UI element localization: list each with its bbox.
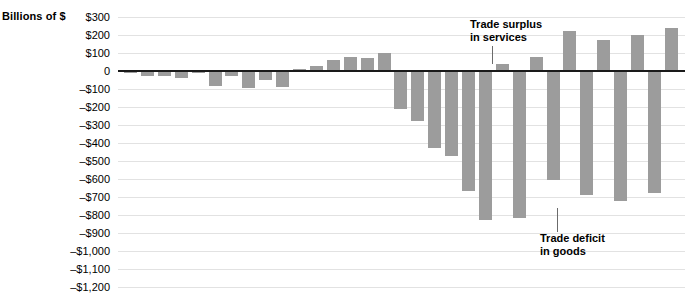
y-tick-label: –$700 <box>79 191 110 203</box>
bar <box>648 71 661 193</box>
bar <box>479 71 492 220</box>
y-axis-tick-labels: $300$200$1000–$100–$200–$300–$400–$500–$… <box>0 0 118 288</box>
bar <box>242 71 255 88</box>
bar <box>597 40 610 71</box>
bar <box>530 57 543 71</box>
bar <box>547 71 560 180</box>
bar <box>614 71 627 201</box>
annotation-deficit-leader-line <box>557 208 558 232</box>
y-tick-label: –$1,100 <box>70 263 110 275</box>
y-tick-label: –$1,200 <box>70 281 110 293</box>
annotation-trade-surplus: Trade surplus in services <box>470 18 542 44</box>
bar <box>378 53 391 71</box>
y-tick-label: $200 <box>86 29 110 41</box>
y-tick-label: –$600 <box>79 173 110 185</box>
bar <box>344 57 357 71</box>
zero-axis-line <box>118 70 685 72</box>
bar <box>428 71 441 148</box>
annotation-deficit-line1: Trade deficit <box>540 232 605 245</box>
bar <box>563 31 576 71</box>
bar <box>445 71 458 156</box>
y-tick-label: –$800 <box>79 209 110 221</box>
y-tick-label: –$900 <box>79 227 110 239</box>
annotation-surplus-line1: Trade surplus <box>470 18 542 31</box>
bar <box>411 71 424 121</box>
y-tick-label: –$1,000 <box>70 245 110 257</box>
y-tick-label: –$300 <box>79 119 110 131</box>
bar <box>394 71 407 109</box>
y-tick-label: 0 <box>104 65 110 77</box>
bar <box>631 35 644 71</box>
bar <box>259 71 272 80</box>
bar <box>462 71 475 191</box>
annotation-deficit-line2: in goods <box>540 245 605 258</box>
y-tick-label: –$100 <box>79 83 110 95</box>
annotation-surplus-line2: in services <box>470 31 542 44</box>
y-tick-label: –$200 <box>79 101 110 113</box>
bar <box>276 71 289 87</box>
y-tick-label: $100 <box>86 47 110 59</box>
annotation-trade-deficit: Trade deficit in goods <box>540 232 605 258</box>
y-tick-label: $300 <box>86 11 110 23</box>
bar <box>580 71 593 195</box>
bar <box>513 71 526 218</box>
annotation-surplus-leader-line <box>492 46 493 64</box>
bar <box>209 71 222 86</box>
bar <box>665 28 678 71</box>
y-tick-label: –$500 <box>79 155 110 167</box>
y-tick-label: –$400 <box>79 137 110 149</box>
bar <box>175 71 188 78</box>
